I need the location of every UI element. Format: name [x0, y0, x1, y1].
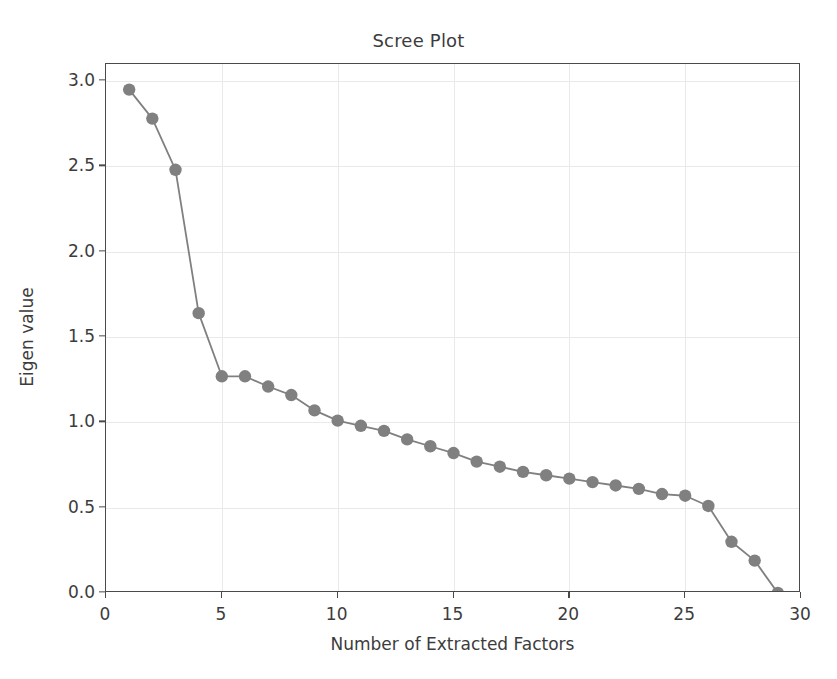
data-point-marker: 15: 0.82 [447, 447, 459, 459]
data-point-marker: 7: 1.21 [262, 380, 274, 392]
data-point-marker: 3: 2.48 [169, 164, 181, 176]
data-point-marker: 5: 1.27 [216, 370, 228, 382]
data-point-marker: 20: 0.67 [563, 472, 575, 484]
series-eigenvalues: 1: 2.952: 2.783: 2.484: 1.645: 1.276: 1.… [106, 64, 800, 592]
data-point-marker: 22: 0.63 [609, 479, 621, 491]
data-point-marker: 1: 2.95 [123, 83, 135, 95]
y-tick-mark [99, 250, 105, 251]
data-point-marker: 12: 0.95 [378, 425, 390, 437]
scree-plot-figure: Scree Plot 1: 2.952: 2.783: 2.484: 1.645… [0, 0, 837, 679]
data-point-marker: 27: 0.3 [725, 536, 737, 548]
data-point-marker: 18: 0.71 [517, 466, 529, 478]
data-point-marker: 25: 0.57 [679, 490, 691, 502]
y-tick-label: 1.5 [39, 326, 95, 346]
y-tick-label: 2.5 [39, 155, 95, 175]
data-point-marker: 17: 0.74 [494, 461, 506, 473]
series-line [129, 90, 778, 592]
x-tick-label: 10 [317, 604, 357, 624]
x-tick-label: 20 [548, 604, 588, 624]
y-tick-mark [99, 165, 105, 166]
data-point-marker: 2: 2.78 [146, 112, 158, 124]
x-tick-label: 0 [85, 604, 125, 624]
y-tick-label: 1.0 [39, 411, 95, 431]
y-axis-tick-labels: 0.00.51.01.52.02.53.0 [33, 0, 95, 679]
data-point-marker: 23: 0.61 [633, 483, 645, 495]
data-point-marker: 10: 1.01 [331, 414, 343, 426]
data-point-marker: 13: 0.9 [401, 433, 413, 445]
x-tick-mark [800, 592, 801, 598]
y-tick-label: 3.0 [39, 70, 95, 90]
data-point-marker: 9: 1.07 [308, 404, 320, 416]
x-tick-mark [453, 592, 454, 598]
data-point-marker: 16: 0.77 [470, 455, 482, 467]
data-point-marker: 24: 0.58 [656, 488, 668, 500]
y-tick-label: 2.0 [39, 241, 95, 261]
y-tick-mark [99, 506, 105, 507]
data-point-marker: 28: 0.19 [748, 554, 760, 566]
x-tick-label: 5 [201, 604, 241, 624]
x-axis-tick-labels: 051015202530 [0, 604, 837, 634]
x-axis-label: Number of Extracted Factors [105, 634, 800, 654]
data-point-marker: 21: 0.65 [586, 476, 598, 488]
x-tick-label: 15 [433, 604, 473, 624]
y-tick-mark [99, 335, 105, 336]
data-point-marker: 4: 1.64 [192, 307, 204, 319]
x-tick-mark [221, 592, 222, 598]
x-tick-mark [684, 592, 685, 598]
x-tick-label: 30 [780, 604, 820, 624]
data-point-marker: 19: 0.69 [540, 469, 552, 481]
data-point-marker: 14: 0.86 [424, 440, 436, 452]
x-tick-mark [337, 592, 338, 598]
chart-title: Scree Plot [0, 30, 837, 51]
y-tick-label: 0.0 [39, 582, 95, 602]
x-tick-mark [105, 592, 106, 598]
data-point-marker: 6: 1.27 [239, 370, 251, 382]
plot-area: 1: 2.952: 2.783: 2.484: 1.645: 1.276: 1.… [105, 63, 800, 592]
x-tick-label: 25 [664, 604, 704, 624]
x-tick-mark [568, 592, 569, 598]
y-tick-label: 0.5 [39, 497, 95, 517]
y-tick-mark [99, 79, 105, 80]
data-point-marker: 11: 0.98 [355, 420, 367, 432]
y-tick-mark [99, 421, 105, 422]
y-axis-label: Eigen value [17, 247, 37, 427]
data-point-marker: 26: 0.51 [702, 500, 714, 512]
data-point-marker: 8: 1.16 [285, 389, 297, 401]
